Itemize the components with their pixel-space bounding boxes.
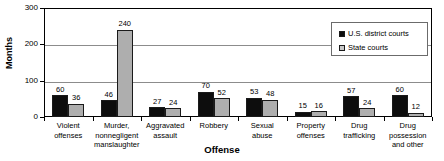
bar-federal — [295, 112, 311, 117]
x-axis-title: Offense — [0, 144, 444, 155]
bar-value-label: 12 — [402, 103, 430, 111]
bar-group: 6036 — [52, 8, 84, 117]
bar-state — [165, 108, 181, 117]
legend-item: State courts — [339, 42, 427, 54]
y-tick-label: 200 — [4, 40, 38, 48]
bar-group: 7052 — [198, 8, 230, 117]
bar-federal — [101, 100, 117, 117]
y-tick-label: 100 — [4, 77, 38, 85]
legend-label: U.S. district courts — [348, 30, 409, 38]
chart-legend: U.S. district courtsState courts — [331, 22, 428, 56]
legend-item: U.S. district courts — [339, 28, 427, 40]
x-category-label-line: assault — [137, 131, 194, 141]
y-tick-label: 0 — [4, 113, 38, 121]
bar-value-label: 48 — [256, 90, 284, 98]
bar-value-label: 24 — [353, 99, 381, 107]
y-axis-title: Months — [4, 23, 14, 83]
bar-state — [408, 113, 424, 117]
bar-state — [117, 30, 133, 117]
x-category-label-line: possession — [380, 131, 437, 141]
bar-value-label: 52 — [208, 89, 236, 97]
bar-state — [311, 111, 327, 117]
bar-value-label: 240 — [111, 20, 139, 28]
bar-group: 5348 — [246, 8, 278, 117]
bar-group: 2724 — [149, 8, 181, 117]
y-tick-label: 300 — [4, 4, 38, 12]
bar-federal — [246, 98, 262, 117]
bar-state — [68, 104, 84, 117]
legend-swatch-icon — [339, 45, 345, 51]
bar-group: 46240 — [101, 8, 133, 117]
bar-value-label: 60 — [386, 86, 414, 94]
bar-value-label: 16 — [305, 102, 333, 110]
bar-state — [262, 100, 278, 117]
bar-value-label: 57 — [337, 87, 365, 95]
legend-label: State courts — [348, 44, 388, 52]
legend-swatch-icon — [339, 31, 345, 37]
bar-state — [214, 98, 230, 117]
bar-value-label: 36 — [62, 94, 90, 102]
bar-state — [359, 108, 375, 117]
bar-value-label: 24 — [159, 99, 187, 107]
bar-value-label: 60 — [46, 86, 74, 94]
bar-chart: Months 0100200300 6036462402724705253481… — [0, 0, 444, 161]
bar-federal — [149, 107, 165, 117]
x-category-label-line: Drug — [380, 121, 437, 131]
bar-group: 1516 — [295, 8, 327, 117]
